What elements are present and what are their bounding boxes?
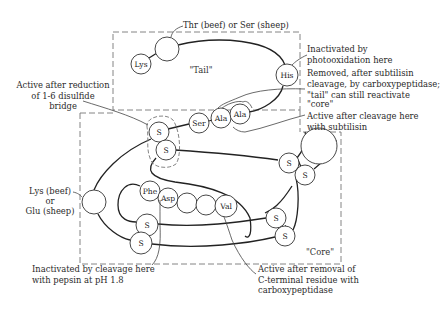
svg-text:Ala: Ala [214,114,228,123]
annotation-cterm: Active after removal of C-terminal resid… [257,264,359,295]
svg-text:cleavage, by carboxypeptidase;: cleavage, by carboxypeptidase; [307,79,440,89]
svg-text:S: S [163,146,168,155]
svg-text:S: S [138,239,143,248]
core-region-box [80,110,341,264]
svg-text:"core": "core" [307,99,334,109]
svg-text:His: His [281,71,294,80]
svg-text:Val: Val [219,202,232,211]
svg-text:Asp: Asp [160,194,175,203]
svg-text:Lys: Lys [134,60,147,69]
svg-text:bridge: bridge [49,101,77,111]
residue-asp: Asp [158,188,178,208]
residue-val: Val [215,195,237,217]
residue-s-lowright-bottom: S [275,226,295,246]
residue-s-lowright-top: S [266,208,286,228]
svg-text:Ser: Ser [192,119,206,128]
svg-text:Inactivated by cleavage here: Inactivated by cleavage here [32,264,155,274]
residue-ala-2: Ala [230,104,250,124]
annotation-disulfide: Active after reduction of 1-6 disulfide … [15,80,110,111]
tail-label: "Tail" [190,65,213,75]
residue-s-bridge-top: S [149,122,169,142]
svg-text:carboxypeptidase: carboxypeptidase [258,285,333,295]
svg-text:Glu (sheep): Glu (sheep) [26,206,75,216]
svg-text:Active after reduction: Active after reduction [15,80,110,90]
ribonuclease-diagram: "Tail" "Core" Lys His Ser Ala Ala S S [0,0,444,310]
annotation-removed: Removed, after subtilisin cleavage, by c… [307,68,440,109]
pointer-lys-glu [73,192,82,197]
svg-text:Ala: Ala [233,110,247,119]
disulfide-loop-circle [301,128,337,164]
core-label: "Core" [306,247,334,257]
residue-lys-tail: Lys [131,54,151,74]
svg-text:of 1-6 disulfide: of 1-6 disulfide [31,91,94,101]
pointer-photoox [292,55,307,65]
residue-his: His [276,64,298,86]
svg-text:S: S [273,214,278,223]
svg-text:S: S [282,232,287,241]
residue-thr-ser [155,37,179,61]
svg-text:Lys (beef): Lys (beef) [29,186,71,196]
annotation-subtilisin: Active after cleavage here with subtilis… [306,111,419,132]
pointer-removed [218,89,305,108]
svg-text:Inactivated by: Inactivated by [307,44,368,54]
svg-text:with pepsin at pH 1.8: with pepsin at pH 1.8 [32,275,124,285]
annotation-thr-ser: Thr (beef) or Ser (sheep) [183,20,289,30]
svg-text:C-terminal residue with: C-terminal residue with [258,275,359,285]
annotation-lys-glu: Lys (beef) or Glu (sheep) [26,186,75,216]
residue-ser: Ser [189,113,209,133]
annotation-photoox: Inactivated by photooxidation here [307,44,392,65]
svg-text:Active after cleavage here: Active after cleavage here [306,111,419,121]
residue-s-bridge-bottom: S [156,140,176,160]
residue-lys-glu [82,190,106,214]
residue-ala-1: Ala [211,108,231,128]
svg-text:with subtilisin: with subtilisin [307,122,368,132]
svg-text:S: S [302,171,307,180]
svg-text:Active after removal of: Active after removal of [257,264,356,274]
svg-text:or: or [45,196,54,206]
pointer-thr-ser [171,26,183,37]
residue-blank-2 [196,195,216,215]
residue-phe: Phe [140,181,160,201]
core-chain [94,124,336,246]
residue-s-right-bottom: S [295,165,315,185]
svg-text:Phe: Phe [143,187,158,196]
annotation-pepsin: Inactivated by cleavage here with pepsin… [32,264,155,285]
residue-s-left-bottom: S [130,232,152,254]
svg-text:S: S [156,128,161,137]
svg-text:Removed, after subtilisin: Removed, after subtilisin [307,68,414,78]
svg-text:S: S [144,221,149,230]
svg-text:photooxidation here: photooxidation here [307,55,392,65]
svg-text:S: S [286,159,291,168]
residue-blank-1 [177,193,197,213]
